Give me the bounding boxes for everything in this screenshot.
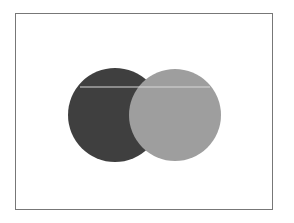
- venn-diagram: [0, 0, 294, 223]
- right-circle: [129, 69, 221, 161]
